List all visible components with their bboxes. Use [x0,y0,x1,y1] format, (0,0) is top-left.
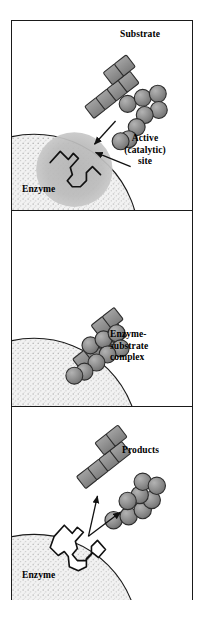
product-spheres-molecule [105,473,166,529]
label-complex-line1: Enzyme- [110,329,182,341]
label-enzyme-substrate-complex: Enzyme- substrate complex [110,329,182,364]
panel-complex: Enzyme- substrate complex [12,210,192,407]
enzyme-reaction-figure: Substrate Active (catalytic) site Enzyme [0,0,206,619]
panel-complex-graphic [12,211,192,407]
label-products: Products [122,445,159,457]
label-active-site-line2: (catalytic) [110,145,180,157]
figure-frame: Substrate Active (catalytic) site Enzyme [11,20,193,600]
label-active-site-line3: site [110,156,180,168]
active-site-halo [36,132,112,207]
label-enzyme-panel1: Enzyme [22,184,55,196]
label-complex-line2: substrate [110,341,182,353]
label-active-site: Active (catalytic) site [110,133,180,168]
label-enzyme-panel3: Enzyme [22,570,55,582]
label-complex-line3: complex [110,352,182,364]
panel-binding-graphic [12,21,192,210]
product-release-arrows [88,496,120,536]
panel-products: Products Enzyme [12,406,192,600]
label-substrate: Substrate [120,29,160,41]
product-blocks-molecule [67,425,136,489]
panel-binding: Substrate Active (catalytic) site Enzyme [12,21,192,210]
label-active-site-line1: Active [110,133,180,145]
